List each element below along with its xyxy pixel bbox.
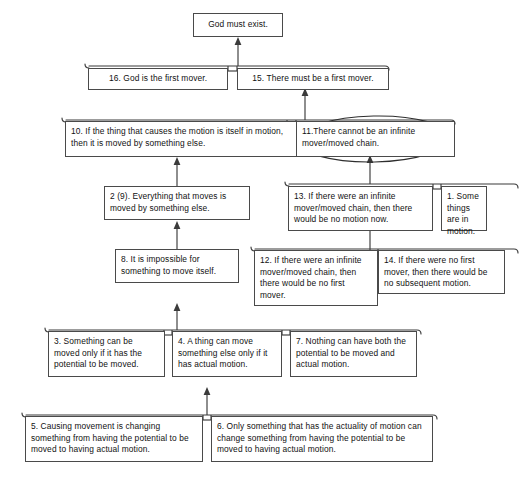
- arrow-node2-to-node10: [174, 157, 181, 186]
- node-4[interactable]: 4. A thing can move something else only …: [172, 331, 282, 377]
- arrow-to-conclusion: [235, 37, 242, 66]
- node-8-label: 8. It is impossible for something to mov…: [121, 254, 216, 276]
- argument-diagram-canvas: God must exist. 16. God is the first mov…: [0, 0, 530, 489]
- node-16[interactable]: 16. God is the first mover.: [88, 68, 228, 90]
- node-11-label: 11.There cannot be an infinite mover/mov…: [302, 126, 415, 148]
- arrow-node8-to-node2: [174, 221, 181, 249]
- node-8[interactable]: 8. It is impossible for something to mov…: [115, 249, 239, 283]
- node-10-label: 10. If the thing that causes the motion …: [71, 126, 283, 148]
- node-2[interactable]: 2 (9). Everything that moves is moved by…: [104, 186, 250, 220]
- arrow-to-node-15: [302, 88, 309, 120]
- node-16-label: 16. God is the first mover.: [109, 73, 207, 85]
- node-1-label: 1. Some things are in motion.: [447, 191, 479, 236]
- node-2-label: 2 (9). Everything that moves is moved by…: [110, 191, 226, 213]
- node-14-label: 14. If there were no first mover, then t…: [384, 255, 488, 288]
- node-15-label: 15. There must be a first mover.: [252, 73, 373, 85]
- node-12[interactable]: 12. If there were an infinite mover/move…: [254, 250, 378, 306]
- arrow-to-node-11: [367, 155, 374, 184]
- node-11[interactable]: 11.There cannot be an infinite mover/mov…: [296, 121, 455, 157]
- node-7-label: 7. Nothing can have both the potential t…: [296, 336, 406, 369]
- arrow-to-node-8: [174, 303, 181, 330]
- node-1[interactable]: 1. Some things are in motion.: [441, 186, 487, 231]
- node-3[interactable]: 3. Something can be moved only if it has…: [48, 331, 165, 377]
- node-7[interactable]: 7. Nothing can have both the potential t…: [290, 331, 417, 377]
- node-3-label: 3. Something can be moved only if it has…: [54, 336, 142, 369]
- node-12-label: 12. If there were an infinite mover/move…: [260, 255, 362, 300]
- node-conclusion[interactable]: God must exist.: [193, 13, 283, 37]
- node-6[interactable]: 6. Only something that has the actuality…: [211, 416, 433, 462]
- node-5-label: 5. Causing movement is changing somethin…: [31, 421, 189, 454]
- node-5[interactable]: 5. Causing movement is changing somethin…: [25, 416, 203, 462]
- arrow-to-node-4: [204, 387, 211, 415]
- node-6-label: 6. Only something that has the actuality…: [217, 421, 422, 454]
- node-10[interactable]: 10. If the thing that causes the motion …: [65, 121, 297, 157]
- node-13[interactable]: 13. If there were an infinite mover/move…: [288, 186, 433, 231]
- node-15[interactable]: 15. There must be a first mover.: [237, 68, 389, 90]
- node-4-label: 4. A thing can move something else only …: [178, 336, 268, 369]
- node-13-label: 13. If there were an infinite mover/move…: [294, 191, 412, 224]
- node-conclusion-label: God must exist.: [208, 19, 268, 31]
- node-14[interactable]: 14. If there were no first mover, then t…: [378, 250, 505, 294]
